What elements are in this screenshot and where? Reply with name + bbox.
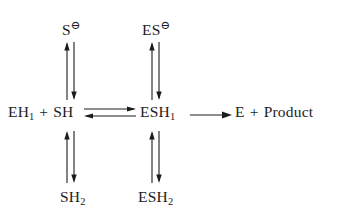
species-es-anion-label: ES	[142, 21, 161, 38]
species-s-anion-label: S	[62, 21, 71, 38]
equilibrium-horizontal-arrow	[84, 105, 136, 121]
species-e-label: E	[235, 103, 245, 120]
species-esh2: ESH2	[138, 189, 173, 207]
species-sh-label: SH	[53, 103, 73, 120]
species-product-label: Product	[264, 103, 314, 120]
species-e-plus-product: E+Product	[235, 104, 313, 120]
equilibrium-right-upper-arrow	[148, 42, 164, 100]
plus-sign: +	[34, 103, 53, 120]
species-es-anion: ES⊖	[142, 20, 170, 38]
equilibrium-left-lower-arrow	[63, 131, 79, 183]
species-sh2-text: SH	[60, 188, 80, 205]
species-esh2-text: ESH	[138, 188, 168, 205]
species-esh1: ESH1	[140, 104, 175, 122]
species-s-anion: S⊖	[62, 20, 80, 38]
species-esh1-text: ESH	[140, 103, 170, 120]
plus-sign: +	[245, 103, 264, 120]
equilibrium-left-upper-arrow	[63, 42, 79, 100]
species-sh2: SH2	[60, 189, 85, 207]
species-esh1-subscript: 1	[170, 111, 175, 122]
minus-charge-icon: ⊖	[71, 19, 81, 31]
species-eh1-plus-sh: EH1+SH	[8, 104, 73, 122]
reaction-scheme: S⊖ ES⊖ EH1+SH ESH1 E+Product SH2 ESH2	[0, 0, 345, 218]
species-esh2-subscript: 2	[168, 196, 173, 207]
species-sh2-subscript: 2	[80, 196, 85, 207]
minus-charge-icon: ⊖	[161, 19, 171, 31]
species-eh1-text: EH	[8, 103, 29, 120]
reaction-forward-arrow	[190, 110, 232, 120]
species-eh1-label: EH1	[8, 103, 34, 120]
equilibrium-right-lower-arrow	[148, 131, 164, 183]
